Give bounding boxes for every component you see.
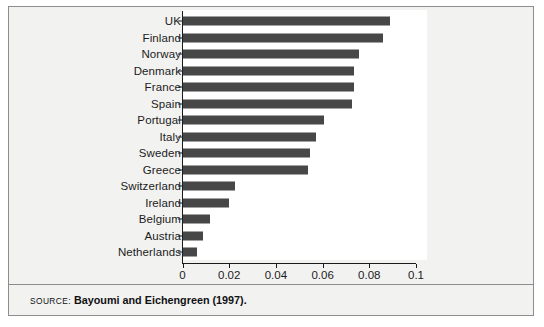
bar-row: Spain bbox=[9, 96, 533, 113]
y-axis-tick bbox=[178, 169, 182, 170]
bar-row: Italy bbox=[9, 129, 533, 146]
bar bbox=[183, 116, 324, 125]
y-axis-tick bbox=[178, 136, 182, 137]
x-axis-tick-label: 0.02 bbox=[218, 269, 240, 281]
bar bbox=[183, 17, 391, 26]
source-citation: Bayoumi and Eichengreen (1997). bbox=[74, 294, 247, 306]
category-label: Austria bbox=[145, 230, 182, 242]
x-axis-tick bbox=[229, 264, 230, 268]
category-label: Netherlands bbox=[118, 246, 181, 258]
bar bbox=[183, 198, 230, 207]
y-axis-tick bbox=[178, 37, 182, 38]
bar-row: Belgium bbox=[9, 211, 533, 228]
bar bbox=[183, 231, 203, 240]
category-label: Switzerland bbox=[120, 180, 181, 192]
y-axis-tick bbox=[178, 54, 182, 55]
category-label: Norway bbox=[141, 48, 181, 60]
y-axis-tick bbox=[178, 186, 182, 187]
bar bbox=[183, 66, 355, 75]
x-axis-tick-label: 0.08 bbox=[358, 269, 380, 281]
y-axis-tick bbox=[178, 70, 182, 71]
bar bbox=[183, 83, 354, 92]
bar bbox=[183, 50, 360, 59]
bar-row: Austria bbox=[9, 228, 533, 245]
category-label: Sweden bbox=[139, 147, 181, 159]
x-axis-tick bbox=[183, 264, 184, 268]
category-label: Spain bbox=[151, 98, 181, 110]
bar-row: Sweden bbox=[9, 145, 533, 162]
bar-row: Netherlands bbox=[9, 244, 533, 261]
bar-row: Greece bbox=[9, 162, 533, 179]
bar bbox=[183, 132, 316, 141]
x-axis-tick-label: 0.06 bbox=[311, 269, 333, 281]
x-axis-tick bbox=[323, 264, 324, 268]
bar-row: Finland bbox=[9, 30, 533, 47]
y-axis-tick bbox=[178, 103, 182, 104]
chart-area: UKFinlandNorwayDenmarkFranceSpainPortuga… bbox=[9, 7, 533, 282]
x-axis-tick bbox=[276, 264, 277, 268]
bar-row: Switzerland bbox=[9, 178, 533, 195]
x-axis-tick bbox=[369, 264, 370, 268]
bar bbox=[183, 215, 210, 224]
category-label: Portugal bbox=[137, 114, 181, 126]
bar bbox=[183, 248, 198, 257]
bar-row: UK bbox=[9, 13, 533, 30]
figure-panel: UKFinlandNorwayDenmarkFranceSpainPortuga… bbox=[8, 6, 534, 316]
source-label: SOURCE: bbox=[30, 296, 71, 306]
x-axis-tick bbox=[416, 264, 417, 268]
x-axis-tick-label: 0.1 bbox=[408, 269, 424, 281]
y-axis-tick bbox=[178, 202, 182, 203]
footer-divider bbox=[9, 284, 533, 285]
y-axis-tick bbox=[178, 87, 182, 88]
bar-row: France bbox=[9, 79, 533, 96]
category-label: France bbox=[145, 81, 181, 93]
y-axis-tick bbox=[178, 219, 182, 220]
y-axis-tick bbox=[178, 21, 182, 22]
bar bbox=[183, 182, 235, 191]
y-axis-tick bbox=[178, 120, 182, 121]
y-axis-tick bbox=[178, 235, 182, 236]
bar bbox=[183, 165, 308, 174]
y-axis-tick bbox=[178, 252, 182, 253]
category-label: Ireland bbox=[145, 197, 181, 209]
category-label: Greece bbox=[143, 164, 181, 176]
x-axis-line bbox=[182, 263, 416, 264]
bar bbox=[183, 149, 310, 158]
bar-row: Ireland bbox=[9, 195, 533, 212]
category-label: Denmark bbox=[134, 65, 181, 77]
y-axis-tick bbox=[178, 153, 182, 154]
category-label: Belgium bbox=[139, 213, 181, 225]
x-axis-tick-label: 0 bbox=[179, 269, 185, 281]
bar-rows: UKFinlandNorwayDenmarkFranceSpainPortuga… bbox=[9, 13, 533, 261]
bar bbox=[183, 33, 383, 42]
category-label: Finland bbox=[143, 32, 181, 44]
bar-row: Denmark bbox=[9, 63, 533, 80]
x-axis-tick-label: 0.04 bbox=[265, 269, 287, 281]
bar bbox=[183, 99, 352, 108]
bar-row: Norway bbox=[9, 46, 533, 63]
bar-row: Portugal bbox=[9, 112, 533, 129]
source-note: SOURCE: Bayoumi and Eichengreen (1997). bbox=[30, 294, 247, 306]
